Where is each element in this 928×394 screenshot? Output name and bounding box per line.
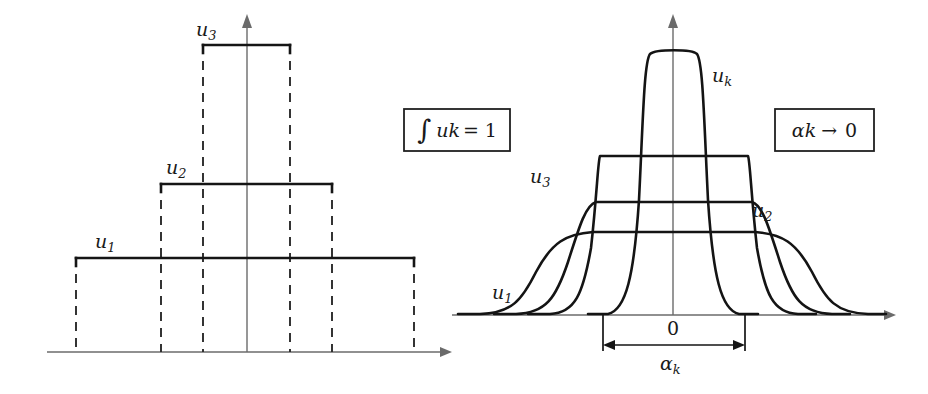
figure-root: u1 u2 u3 u1 u2 u3 uk 0 αk ∫uk= 1 αk→0 — [0, 0, 928, 394]
left-label-u2: u2 — [166, 158, 186, 181]
right-arrow-icon: → — [821, 119, 837, 141]
right-label-u1-base: u — [492, 281, 504, 303]
right-label-uk-sub: k — [724, 74, 732, 89]
integral-function-sub: k — [448, 119, 460, 141]
right-y-axis-arrowhead — [668, 14, 678, 28]
right-label-u1: u1 — [492, 283, 512, 306]
alpha-limit-sub: k — [805, 119, 817, 141]
right-label-uk: uk — [712, 66, 732, 89]
integral-relation: = 1 — [463, 119, 497, 141]
left-label-u1-sub: 1 — [107, 240, 115, 255]
left-y-axis-arrowhead — [242, 14, 252, 28]
alpha-width-label-base: α — [660, 352, 673, 374]
alpha-width-label: αk — [660, 354, 681, 377]
right-label-u2: u2 — [752, 201, 772, 224]
right-label-u3: u3 — [530, 167, 550, 190]
left-label-u3: u3 — [196, 20, 216, 43]
alpha-limit-base: α — [792, 119, 805, 141]
right-label-u3-sub: 3 — [542, 175, 550, 190]
right-label-u2-base: u — [752, 199, 764, 221]
left-x-axis-arrowhead — [440, 347, 452, 357]
left-label-u2-base: u — [166, 156, 178, 178]
integral-function-base: u — [436, 119, 448, 141]
left-label-u3-base: u — [196, 18, 208, 40]
alpha-limit-value: 0 — [845, 119, 857, 141]
left-label-u3-sub: 3 — [208, 28, 216, 43]
right-label-u1-sub: 1 — [504, 291, 512, 306]
right-label-uk-base: u — [712, 64, 724, 86]
left-panel-group — [47, 14, 452, 357]
integral-condition-text: ∫uk= 1 — [404, 109, 510, 151]
alpha-limit-text: αk→0 — [775, 109, 874, 151]
u2-bump-curve — [494, 202, 850, 314]
figure-canvas — [0, 0, 928, 394]
right-panel-group — [452, 14, 896, 351]
integral-icon: ∫ — [417, 114, 431, 145]
alpha-left-arrowhead — [603, 340, 615, 350]
u1-bump-curve — [458, 232, 886, 314]
right-label-u2-sub: 2 — [764, 209, 772, 224]
left-label-u2-sub: 2 — [178, 166, 186, 181]
left-label-u1: u1 — [95, 232, 115, 255]
origin-label: 0 — [667, 319, 679, 338]
right-label-u3-base: u — [530, 165, 542, 187]
alpha-right-arrowhead — [733, 340, 745, 350]
left-label-u1-base: u — [95, 230, 107, 252]
alpha-width-label-sub: k — [673, 362, 681, 377]
